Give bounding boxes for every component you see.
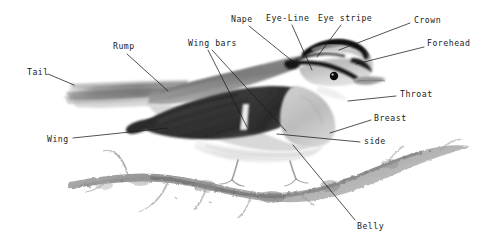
label-rump: Rump [113, 42, 135, 50]
label-crown: Crown [414, 16, 441, 24]
label-throat: Throat [400, 90, 433, 98]
label-eye-stripe: Eye stripe [318, 14, 372, 22]
label-breast: Breast [374, 114, 407, 122]
bird-legs [220, 160, 308, 186]
label-nape: Nape [231, 15, 253, 23]
nape-leader [249, 26, 296, 64]
label-wing: Wing [47, 135, 69, 143]
breast-leader [330, 120, 371, 133]
bird-anatomy-diagram: Tail Rump Wing bars Wing Nape Eye-Line E… [0, 0, 496, 251]
crown-leader [339, 23, 410, 50]
label-forehead: Forehead [427, 39, 470, 47]
bird-eye [330, 72, 338, 80]
bird-figure [64, 40, 386, 186]
wing-leader [73, 128, 168, 138]
label-belly: Belly [357, 222, 384, 230]
label-eye-line: Eye-Line [266, 14, 309, 22]
label-tail: Tail [27, 68, 49, 76]
throat-leader [348, 96, 396, 101]
label-wing-bars: Wing bars [188, 39, 237, 47]
label-side: side [364, 137, 386, 145]
bird-illustration [0, 0, 496, 251]
tail-leader [48, 74, 74, 85]
tree-branch [68, 139, 470, 218]
